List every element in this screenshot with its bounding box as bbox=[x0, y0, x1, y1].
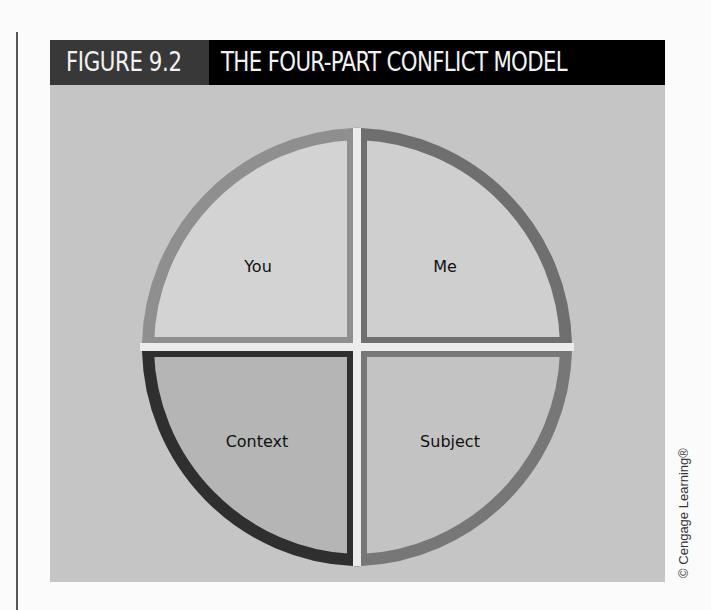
label-me: Me bbox=[433, 257, 457, 276]
label-subject: Subject bbox=[420, 432, 480, 451]
quadrant-me bbox=[361, 134, 566, 343]
quadrant-you bbox=[148, 134, 353, 343]
quadrant-context bbox=[148, 351, 353, 560]
label-context: Context bbox=[226, 432, 289, 451]
quadrant-subject bbox=[361, 351, 566, 560]
copyright-credit: © Cengage Learning® bbox=[676, 448, 691, 578]
label-you: You bbox=[244, 257, 272, 276]
horizontal-divider bbox=[140, 343, 574, 351]
four-part-conflict-diagram bbox=[0, 0, 711, 610]
